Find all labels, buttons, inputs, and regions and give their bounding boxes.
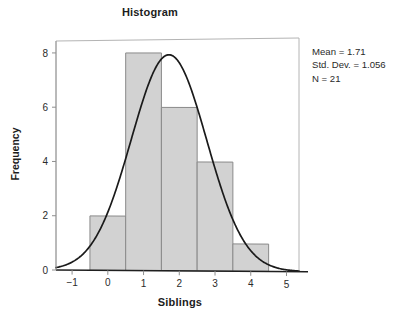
histogram-bar [233,244,269,272]
y-tick-label: 8 [42,48,48,59]
y-tick-label: 0 [42,265,48,276]
y-tick-label: 2 [42,210,48,221]
x-tick-label: 4 [248,278,254,289]
x-axis-ticks: −1012345 [66,270,289,289]
plot-area: 02468−1012345 [0,0,407,322]
x-tick-label: −1 [66,277,78,288]
histogram-figure: Histogram Frequency Siblings Mean = 1.71… [0,0,407,322]
x-tick-label: 2 [177,278,183,289]
y-tick-label: 6 [42,102,48,113]
x-tick-label: 1 [141,278,147,289]
histogram-bar [161,107,197,271]
histogram-bar [90,216,126,271]
histogram-bar [126,53,162,271]
x-tick-label: 5 [284,279,290,290]
x-axis-line [56,270,308,272]
y-axis-ticks: 02468 [42,48,56,276]
x-tick-label: 0 [105,277,111,288]
x-tick-label: 3 [212,278,218,289]
histogram-bar [197,162,233,271]
y-tick-label: 4 [42,156,48,167]
